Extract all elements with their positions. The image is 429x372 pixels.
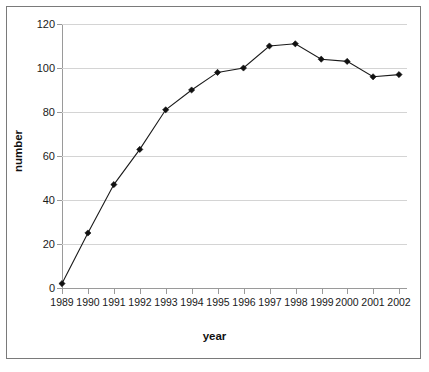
series-markers-number: [59, 41, 402, 287]
data-point-1995: [214, 69, 220, 75]
data-point-1989: [59, 281, 65, 287]
series-line-number: [62, 44, 399, 284]
data-point-1990: [85, 230, 91, 236]
data-point-1998: [292, 41, 298, 47]
data-point-2002: [396, 72, 402, 78]
y-axis-title: number: [12, 111, 24, 191]
data-point-1999: [318, 56, 324, 62]
chart-figure: 120 100 80 60 40 20 0: [0, 0, 429, 372]
data-point-2001: [370, 74, 376, 80]
x-axis-title: year: [0, 330, 429, 342]
data-point-2000: [344, 58, 350, 64]
data-series-layer: [0, 0, 429, 372]
